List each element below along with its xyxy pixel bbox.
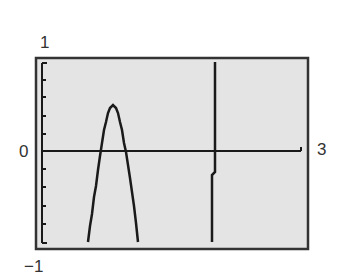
plot-frame [36,58,308,249]
graph-screen [0,0,344,278]
